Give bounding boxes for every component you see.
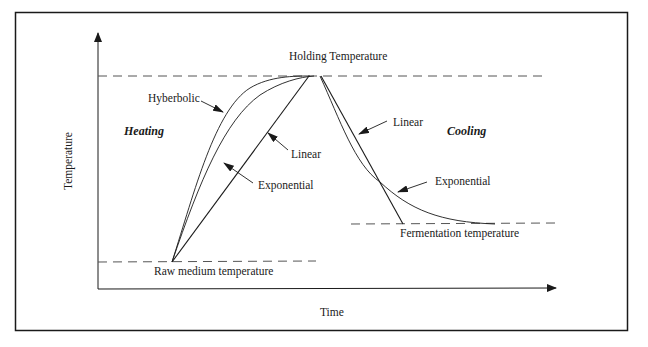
heating-linear-pointer-arrow — [268, 133, 288, 150]
raw-medium-temperature-line — [98, 261, 316, 262]
x-axis — [98, 288, 556, 289]
cooling-linear-pointer-arrow — [359, 121, 387, 134]
heating-region-label: Heating — [123, 124, 164, 138]
cooling-region-label: Cooling — [447, 124, 486, 138]
raw-medium-temperature-label: Raw medium temperature — [154, 265, 273, 278]
y-axis-label: Temperature — [62, 132, 75, 190]
cooling-linear-line — [321, 76, 403, 224]
cooling-exponential-pointer-arrow — [398, 182, 427, 192]
holding-temperature-label: Holding Temperature — [289, 50, 387, 63]
heating-hyperbolic-label: Hyberbolic — [148, 92, 200, 105]
heating-exponential-label: Exponential — [258, 179, 314, 192]
temperature-profile-diagram: Holding Temperature Raw medium temperatu… — [0, 0, 648, 347]
x-axis-label: Time — [320, 306, 344, 318]
fermentation-temperature-line — [351, 223, 556, 224]
cooling-exponential-label: Exponential — [435, 175, 491, 188]
heating-linear-label: Linear — [291, 148, 321, 160]
diagram-frame: Holding Temperature Raw medium temperatu… — [0, 0, 648, 347]
hyperbolic-pointer-arrow — [201, 101, 223, 112]
fermentation-temperature-label: Fermentation temperature — [400, 227, 519, 240]
cooling-linear-label: Linear — [393, 116, 423, 128]
cooling-exponential-curve — [320, 76, 495, 224]
heating-exponential-pointer-arrow — [224, 163, 253, 183]
